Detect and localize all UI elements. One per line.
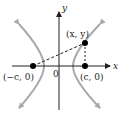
left-focus-point [30,63,36,69]
hyperbola-diagram: y x 0 (−c, 0) (c, 0) (x, y) [0,0,123,118]
curve-point [82,40,88,46]
left-focus-label: (−c, 0) [3,72,34,82]
right-focus-point [82,63,88,69]
curve-point-label: (x, y) [66,29,89,39]
x-axis-label: x [113,61,118,71]
y-axis-label: y [61,3,68,13]
origin-label: 0 [53,69,59,79]
right-focus-label: (c, 0) [80,72,104,82]
